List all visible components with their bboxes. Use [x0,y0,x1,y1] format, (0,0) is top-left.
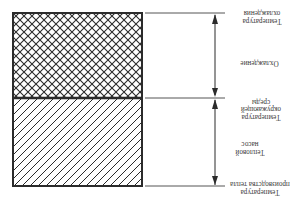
label-line: насос [225,140,275,148]
label-line: производства тепла [226,180,294,188]
label-line: Температура [230,112,292,120]
label-line: Тепловой [225,148,275,156]
heat-pump-arrow [212,99,218,185]
label-line: Температура [232,17,292,25]
cooling-arrow [212,14,218,97]
label-line: охлаждения [232,9,292,17]
label-cooling: Охлаждение [232,58,287,66]
label-heat-pump: Тепловой насос [225,140,275,155]
heat-pump-region [13,98,142,186]
label-line: среды [230,97,292,105]
label-cooling-temperature: Температура охлаждения [232,9,292,24]
cooling-region [13,13,142,98]
label-line: Охлаждение [232,58,287,66]
label-ambient-temperature: Температура окружающей среды [230,97,292,120]
label-line: окружающей [230,105,292,113]
label-line: Температура [226,188,294,196]
label-heat-production-temperature: Температура производства тепла [226,180,294,195]
